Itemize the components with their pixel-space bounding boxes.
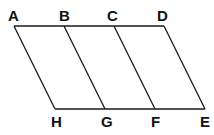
label-a: A — [8, 7, 19, 24]
segment-de — [164, 26, 205, 109]
segment-bg — [64, 26, 105, 109]
label-e: E — [200, 113, 210, 130]
segment-cf — [114, 26, 155, 109]
label-d: D — [157, 7, 168, 24]
label-f: F — [151, 113, 160, 130]
parallelogram-diagram: A B C D H G F E — [0, 0, 214, 135]
label-g: G — [101, 113, 113, 130]
label-b: B — [59, 7, 70, 24]
label-c: C — [107, 7, 118, 24]
segment-ah — [14, 26, 55, 109]
label-h: H — [51, 113, 62, 130]
